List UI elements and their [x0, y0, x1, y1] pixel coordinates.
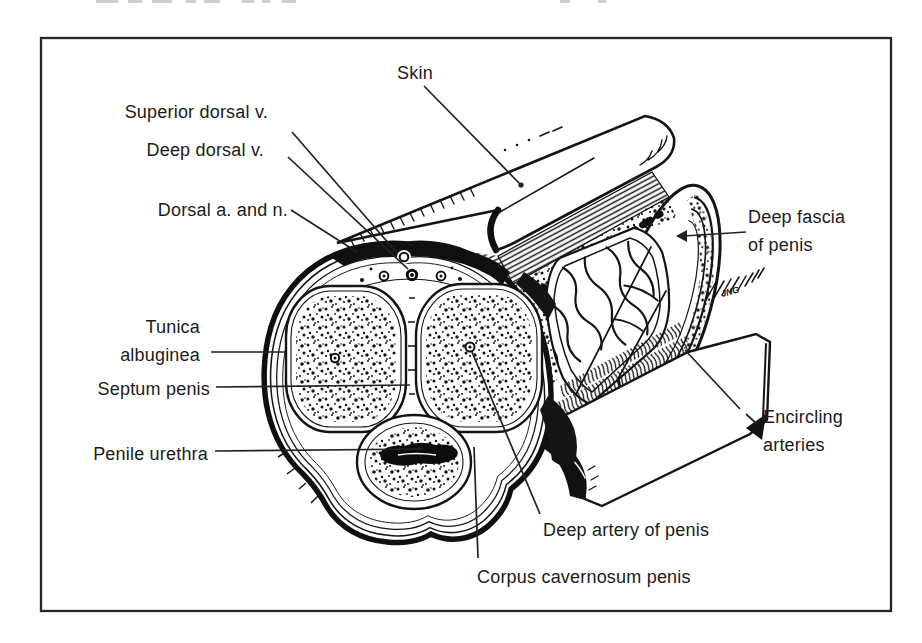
page-crop-remnants	[96, 0, 606, 3]
figure-page: JNG	[0, 0, 922, 643]
label-tunica-albuginea: Tunica albuginea	[120, 313, 200, 369]
label-tunica-line2: albuginea	[120, 341, 200, 369]
label-penile-urethra: Penile urethra	[93, 441, 208, 468]
label-corpus-cavernosum: Corpus cavernosum penis	[477, 564, 691, 591]
label-deep-fascia-line2: of penis	[748, 231, 845, 259]
corpus-cavernosum-right-shape	[416, 284, 542, 432]
deep-dorsal-vein-shape	[406, 269, 418, 281]
label-skin: Skin	[397, 60, 433, 87]
label-deep-fascia: Deep fascia of penis	[748, 203, 845, 259]
label-deep-fascia-line1: Deep fascia	[748, 203, 845, 231]
label-encircling-line2: arteries	[763, 431, 843, 459]
corpus-cavernosum-left-shape	[286, 286, 406, 432]
label-dorsal-artery-nerve: Dorsal a. and n.	[158, 197, 288, 224]
dorsal-nerve-left-shape	[360, 278, 364, 282]
label-superior-dorsal-vein: Superior dorsal v.	[125, 99, 268, 126]
label-deep-dorsal-vein: Deep dorsal v.	[146, 137, 264, 164]
leader-skin-dot	[518, 182, 523, 187]
label-encircling-line1: Encircling	[763, 403, 843, 431]
dorsal-nerve-right-shape	[458, 277, 462, 281]
label-septum-penis: Septum penis	[98, 376, 210, 403]
label-deep-artery: Deep artery of penis	[543, 517, 709, 544]
superior-dorsal-vein-shape	[400, 253, 409, 262]
label-encircling-arteries: Encircling arteries	[763, 403, 843, 459]
label-tunica-line1: Tunica	[120, 313, 200, 341]
